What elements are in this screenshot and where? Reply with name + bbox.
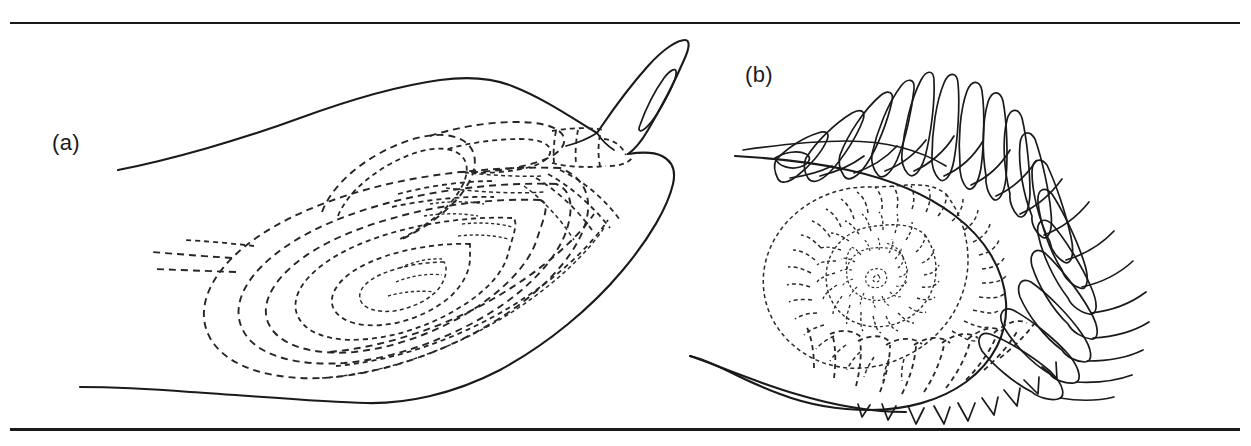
figure-artwork: .s { fill:none; stroke:#1a1a1a; stroke-w… (0, 0, 1251, 446)
panel-label-b: (b) (745, 62, 773, 88)
figure-root: .s { fill:none; stroke:#1a1a1a; stroke-w… (0, 0, 1251, 446)
spiral-outer-teeth (787, 186, 1006, 381)
spiral-inner-teeth (839, 237, 908, 309)
panel-label-a: (a) (52, 130, 80, 156)
spiral-middle-teeth (817, 212, 939, 333)
panel-a-artwork (80, 40, 689, 403)
panel-b-artwork (690, 72, 1149, 424)
